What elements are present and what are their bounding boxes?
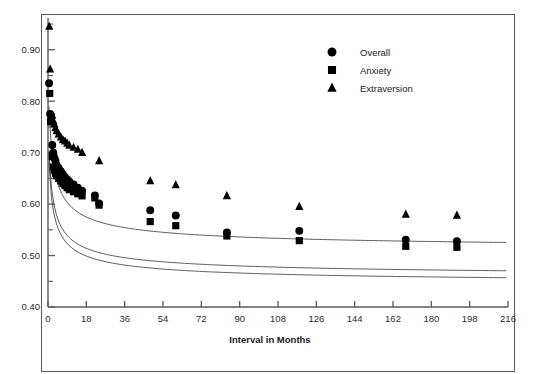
- fitted-curve-overall: [49, 151, 506, 271]
- data-point-circle: [48, 141, 56, 149]
- ticks-layer: [48, 24, 508, 307]
- fitted-curve-extraversion: [49, 106, 506, 242]
- legend-marker-square: [328, 66, 336, 74]
- legend-label-anxiety: Anxiety: [360, 65, 391, 76]
- x-tick-label: 126: [308, 313, 324, 324]
- x-tick-label: 18: [81, 313, 92, 324]
- data-point-square: [78, 192, 85, 199]
- data-point-circle: [172, 211, 180, 219]
- x-tick-label: 144: [347, 313, 363, 324]
- y-tick-label: 0.70: [22, 147, 41, 158]
- y-tick-label: 0.50: [22, 250, 41, 261]
- data-point-triangle: [453, 211, 461, 219]
- tick-labels-layer: 0.400.500.600.700.800.900183654729010812…: [22, 44, 516, 324]
- data-point-circle: [146, 206, 154, 214]
- data-point-square: [49, 153, 56, 160]
- fitted-curve-anxiety: [49, 161, 506, 277]
- data-point-triangle: [46, 64, 54, 72]
- series-anxiety: [46, 90, 460, 251]
- y-tick-label: 0.80: [22, 96, 41, 107]
- data-point-square: [147, 218, 154, 225]
- data-point-triangle: [45, 22, 53, 30]
- x-tick-label: 36: [119, 313, 130, 324]
- data-point-square: [172, 222, 179, 229]
- data-point-triangle: [172, 180, 180, 188]
- series-overall: [45, 79, 461, 245]
- data-point-triangle: [295, 202, 303, 210]
- data-points-layer: [45, 22, 461, 251]
- legend-marker-triangle: [327, 83, 336, 92]
- data-point-square: [91, 194, 98, 201]
- data-point-circle: [402, 236, 410, 244]
- x-tick-label: 0: [45, 313, 50, 324]
- data-point-square: [402, 243, 409, 250]
- x-axis-title: Interval in Months: [229, 334, 310, 345]
- data-point-square: [96, 202, 103, 209]
- data-point-square: [223, 232, 230, 239]
- data-point-circle: [45, 79, 53, 87]
- chart-canvas: 0.400.500.600.700.800.900183654729010812…: [0, 0, 539, 374]
- y-tick-label: 0.90: [22, 44, 41, 55]
- data-point-square: [296, 237, 303, 244]
- data-point-triangle: [402, 210, 410, 218]
- axis-title-layer: Interval in Months: [229, 334, 310, 345]
- fitted-curves-layer: [49, 106, 506, 278]
- chart-legend: OverallAnxietyExtraversion: [327, 47, 412, 94]
- legend-label-overall: Overall: [360, 47, 390, 58]
- series-extraversion: [45, 22, 461, 219]
- data-point-triangle: [95, 156, 103, 164]
- data-point-triangle: [223, 191, 231, 199]
- legend-label-extraversion: Extraversion: [360, 83, 413, 94]
- x-tick-label: 162: [385, 313, 401, 324]
- x-tick-label: 216: [500, 313, 516, 324]
- x-tick-label: 198: [462, 313, 478, 324]
- x-tick-label: 72: [196, 313, 207, 324]
- legend-marker-circle: [328, 48, 337, 57]
- x-tick-label: 180: [423, 313, 439, 324]
- x-tick-label: 90: [234, 313, 245, 324]
- x-tick-label: 108: [270, 313, 286, 324]
- data-point-circle: [295, 227, 303, 235]
- y-tick-label: 0.40: [22, 301, 41, 312]
- figure-container: 0.400.500.600.700.800.900183654729010812…: [0, 0, 539, 374]
- data-point-square: [46, 90, 53, 97]
- data-point-triangle: [146, 176, 154, 184]
- data-point-square: [453, 244, 460, 251]
- x-tick-label: 54: [158, 313, 169, 324]
- y-tick-label: 0.60: [22, 198, 41, 209]
